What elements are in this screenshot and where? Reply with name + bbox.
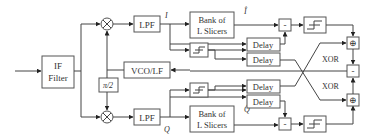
svg-text:Bank of: Bank of — [198, 15, 225, 25]
bank-slicers-top-block: Bank of L Slicers — [190, 12, 234, 38]
svg-text:VCO/LF: VCO/LF — [131, 66, 163, 76]
svg-text:-: - — [284, 119, 287, 129]
xor-bottom: ⊕ — [347, 94, 359, 106]
slicer-bottom-block — [190, 83, 208, 97]
svg-text:Delay: Delay — [253, 40, 274, 50]
svg-text:Delay: Delay — [253, 55, 274, 65]
bank-slicers-bottom-block: Bank of L Slicers — [190, 106, 234, 132]
svg-text:LPF: LPF — [139, 20, 155, 30]
mixer-top — [101, 18, 113, 30]
vco-lf-block: VCO/LF — [124, 62, 170, 78]
svg-text:Bank of: Bank of — [198, 109, 225, 119]
svg-text:Delay: Delay — [253, 82, 274, 92]
pi-over-2-block: π/2 — [99, 78, 118, 92]
signal-q-label: Q — [164, 125, 170, 134]
svg-text:-: - — [352, 66, 355, 76]
mixer-bottom — [101, 111, 113, 123]
xor-label-top: XOR — [322, 55, 340, 64]
lpf-top-block: LPF — [134, 16, 160, 32]
svg-text:Filter: Filter — [48, 73, 68, 83]
if-filter-block: IF Filter — [42, 56, 74, 88]
slicer-top-block — [190, 43, 208, 57]
receiver-block-diagram: IF Filter VCO/LF π/2 LPF LPF I Q — [0, 0, 371, 139]
slicer-bottom-right — [304, 116, 326, 132]
subtract-final: - — [347, 65, 359, 77]
delay-4: Delay — [247, 95, 280, 108]
svg-text:L Slicers: L Slicers — [197, 26, 227, 36]
xor-label-bottom: XOR — [322, 82, 340, 91]
delay-2: Delay — [247, 53, 280, 66]
svg-text:LPF: LPF — [139, 113, 155, 123]
svg-text:IF: IF — [54, 61, 62, 71]
delay-3: Delay — [247, 80, 280, 93]
svg-text:-: - — [284, 20, 287, 30]
slicer-top-right — [304, 17, 326, 33]
delay-1: Delay — [247, 38, 280, 51]
signal-i-hat-label: Î — [243, 6, 248, 16]
xor-top: ⊕ — [347, 37, 359, 49]
svg-text:L Slicers: L Slicers — [197, 120, 227, 130]
signal-i-label: I — [164, 11, 168, 20]
subtract-top: - — [279, 19, 291, 31]
svg-text:⊕: ⊕ — [349, 38, 357, 48]
svg-text:π/2: π/2 — [103, 81, 113, 90]
svg-text:Delay: Delay — [253, 97, 274, 107]
lpf-bottom-block: LPF — [134, 109, 160, 125]
subtract-bottom: - — [279, 118, 291, 130]
svg-text:⊕: ⊕ — [349, 95, 357, 105]
